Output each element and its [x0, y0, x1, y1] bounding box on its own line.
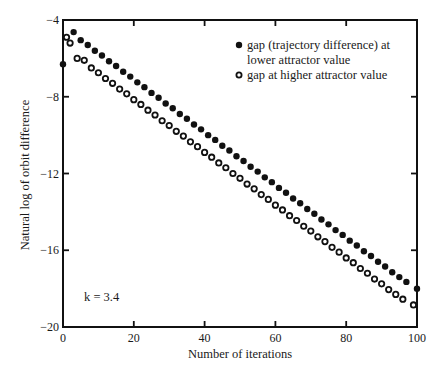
- data-point-filled: [191, 121, 197, 127]
- data-point-open: [195, 144, 200, 149]
- data-point-filled: [148, 90, 154, 96]
- x-axis-label: Number of iterations: [188, 347, 292, 361]
- data-point-open: [138, 102, 143, 107]
- data-point-open: [344, 255, 349, 260]
- data-point-filled: [262, 174, 268, 180]
- data-point-filled: [389, 269, 395, 275]
- data-point-open: [230, 171, 235, 176]
- data-point-filled: [155, 95, 161, 101]
- legend-label-lower-line2: lower attractor value: [247, 53, 351, 67]
- data-point-filled: [332, 227, 338, 233]
- y-tick-label: −20: [40, 320, 59, 334]
- data-point-open: [159, 118, 164, 123]
- data-point-open: [259, 192, 264, 197]
- y-axis-label: Natural log of orbit difference: [18, 99, 32, 250]
- data-point-open: [411, 302, 416, 307]
- data-point-open: [167, 123, 172, 128]
- data-point-filled: [113, 63, 119, 69]
- data-point-open: [351, 260, 356, 265]
- x-tick-label: 0: [60, 331, 66, 345]
- data-point-filled: [170, 105, 176, 111]
- data-point-filled: [311, 211, 317, 217]
- data-point-open: [209, 154, 214, 159]
- data-point-filled: [375, 259, 381, 265]
- data-point-open: [379, 281, 384, 286]
- data-point-open: [181, 133, 186, 138]
- data-point-open: [216, 160, 221, 165]
- legend-label-lower-line1: gap (trajectory difference) at: [247, 38, 391, 52]
- data-point-open: [96, 70, 101, 75]
- data-point-filled: [368, 253, 374, 259]
- data-point-filled: [106, 58, 112, 64]
- data-point-filled: [134, 79, 140, 85]
- legend-label-higher: gap at higher attractor value: [247, 68, 388, 82]
- data-point-filled: [212, 137, 218, 143]
- data-point-filled: [269, 179, 275, 185]
- data-point-open: [400, 296, 405, 301]
- y-tick-label: −4: [46, 13, 59, 27]
- data-point-open: [89, 65, 94, 70]
- data-point-open: [294, 218, 299, 223]
- y-tick-label: −12: [40, 167, 59, 181]
- data-point-filled: [240, 158, 246, 164]
- x-tick-label: 40: [199, 331, 211, 345]
- data-point-filled: [347, 237, 353, 243]
- data-point-open: [237, 176, 242, 181]
- legend-marker-open-icon: [236, 72, 241, 77]
- data-point-open: [223, 165, 228, 170]
- data-point-open: [64, 35, 69, 40]
- data-point-filled: [339, 232, 345, 238]
- data-point-filled: [141, 84, 147, 90]
- data-point-filled: [60, 61, 66, 67]
- data-point-open: [336, 249, 341, 254]
- data-point-open: [103, 76, 108, 81]
- data-point-open: [308, 228, 313, 233]
- y-tick-label: −16: [40, 243, 59, 257]
- data-point-open: [393, 292, 398, 297]
- data-point-filled: [219, 142, 225, 148]
- data-point-filled: [233, 153, 239, 159]
- data-point-open: [266, 197, 271, 202]
- data-point-filled: [184, 116, 190, 122]
- data-point-filled: [99, 52, 105, 58]
- data-point-filled: [354, 242, 360, 248]
- data-point-filled: [283, 189, 289, 195]
- data-point-open: [145, 107, 150, 112]
- data-point-open: [74, 56, 79, 61]
- data-point-filled: [78, 37, 84, 43]
- data-point-open: [273, 202, 278, 207]
- data-point-open: [131, 97, 136, 102]
- data-point-filled: [403, 279, 409, 285]
- data-point-open: [244, 181, 249, 186]
- data-point-open: [174, 129, 179, 134]
- data-point-filled: [414, 285, 420, 291]
- data-point-filled: [226, 147, 232, 153]
- legend: gap (trajectory difference) at lower att…: [236, 38, 391, 82]
- chart-figure: 020406080100−4−8−12−16−20 gap (trajector…: [0, 0, 445, 379]
- data-point-filled: [290, 195, 296, 201]
- x-tick-label: 20: [128, 331, 140, 345]
- y-tick-label: −8: [46, 90, 59, 104]
- data-point-filled: [162, 100, 168, 106]
- data-point-open: [358, 266, 363, 271]
- data-point-open: [301, 224, 306, 229]
- data-point-open: [329, 245, 334, 250]
- data-point-filled: [396, 274, 402, 280]
- data-point-filled: [92, 48, 98, 54]
- data-point-filled: [177, 111, 183, 117]
- data-point-open: [280, 207, 285, 212]
- data-point-filled: [318, 216, 324, 222]
- data-point-open: [67, 40, 72, 45]
- data-point-filled: [325, 221, 331, 227]
- x-tick-label: 60: [269, 331, 281, 345]
- data-point-filled: [198, 126, 204, 132]
- data-point-open: [365, 271, 370, 276]
- data-point-filled: [85, 42, 91, 48]
- data-point-open: [117, 86, 122, 91]
- data-point-open: [251, 186, 256, 191]
- data-point-open: [287, 213, 292, 218]
- data-point-open: [152, 112, 157, 117]
- parameter-annotation: k = 3.4: [84, 290, 120, 304]
- data-point-open: [372, 276, 377, 281]
- data-point-filled: [70, 29, 76, 35]
